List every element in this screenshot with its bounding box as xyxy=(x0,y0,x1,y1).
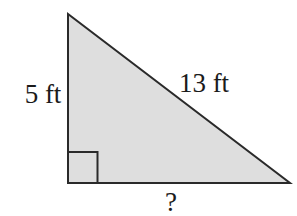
hypotenuse-label: 13 ft xyxy=(179,68,230,98)
triangle-diagram: 5 ft 13 ft ? xyxy=(0,0,297,216)
base-label: ? xyxy=(165,187,177,216)
triangle-shape xyxy=(68,14,290,183)
triangle-svg: 5 ft 13 ft ? xyxy=(0,0,297,216)
left-leg-label: 5 ft xyxy=(25,79,62,109)
